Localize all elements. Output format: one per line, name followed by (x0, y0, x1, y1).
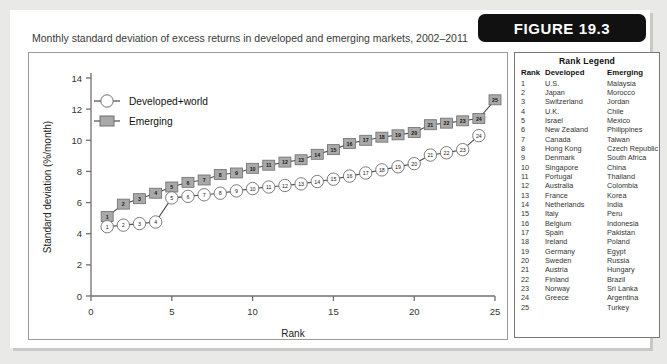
cell-rank: 16 (515, 219, 545, 228)
column-header-rank: Rank (515, 68, 545, 79)
data-point-label: 22 (444, 150, 450, 156)
data-point-label: 7 (203, 192, 206, 198)
data-point-label: 18 (379, 167, 385, 173)
cell-emerging: Morocco (607, 88, 667, 97)
cell-emerging: Sri Lanka (607, 284, 667, 293)
cell-emerging: Mexico (607, 116, 667, 125)
y-axis-tick-label: 6 (77, 197, 82, 208)
x-axis-tick-label: 20 (409, 306, 420, 317)
cell-rank: 11 (515, 172, 545, 181)
y-axis-tick-label: 8 (77, 166, 82, 177)
cell-emerging: India (607, 200, 667, 209)
data-point-label: 18 (379, 134, 385, 140)
data-point-label: 17 (363, 137, 369, 143)
data-point-label: 16 (347, 141, 353, 147)
cell-emerging: Indonesia (607, 219, 667, 228)
data-point-label: 23 (460, 118, 466, 124)
cell-rank: 17 (515, 228, 545, 237)
cell-emerging: Czech Republic (607, 144, 667, 153)
data-point-label: 8 (219, 190, 222, 196)
table-row: 9DenmarkSouth Africa (515, 153, 667, 162)
cell-developed: U.S. (545, 79, 607, 88)
cell-rank: 21 (515, 265, 545, 274)
table-row: 16BelgiumIndonesia (515, 219, 667, 228)
cell-emerging: Hungary (607, 265, 667, 274)
data-point-label: 15 (330, 176, 336, 182)
x-axis-tick-label: 5 (169, 306, 174, 317)
data-point-label: 25 (492, 97, 498, 103)
cell-emerging: Poland (607, 237, 667, 246)
cell-emerging: Russia (607, 256, 667, 265)
cell-rank: 20 (515, 256, 545, 265)
data-point-label: 14 (314, 179, 320, 185)
table-row: 15ItalyPeru (515, 209, 667, 218)
y-axis-tick-label: 2 (77, 259, 82, 270)
data-point-label: 10 (250, 166, 256, 172)
y-axis-tick-label: 14 (71, 73, 82, 84)
cell-emerging: Jordan (607, 97, 667, 106)
legend-label-emerging: Emerging (129, 116, 173, 127)
cell-rank: 3 (515, 97, 545, 106)
cell-rank: 12 (515, 181, 545, 190)
table-row: 4U.K.Chile (515, 107, 667, 116)
cell-developed: U.K. (545, 107, 607, 116)
data-point-label: 6 (186, 194, 189, 200)
data-point-label: 21 (427, 122, 433, 128)
table-row: 10SingaporeChina (515, 163, 667, 172)
cell-emerging: Pakistan (607, 228, 667, 237)
table-row: 2JapanMorocco (515, 88, 667, 97)
cell-rank: 4 (515, 107, 545, 116)
cell-emerging: Argentina (607, 293, 667, 302)
data-point-label: 12 (282, 183, 288, 189)
cell-emerging: Philippines (607, 125, 667, 134)
cell-developed: Norway (545, 284, 607, 293)
table-row: 3SwitzerlandJordan (515, 97, 667, 106)
rank-legend-table: Rank Developed Emerging 1U.S.Malaysia2Ja… (515, 68, 667, 312)
data-point-label: 2 (122, 222, 125, 228)
cell-emerging: Turkey (607, 303, 667, 312)
data-point-label: 13 (298, 181, 304, 187)
y-axis-tick-label: 4 (77, 228, 82, 239)
table-row: 5IsraelMexico (515, 116, 667, 125)
cell-developed: Germany (545, 247, 607, 256)
data-point-label: 9 (235, 170, 238, 176)
data-point-label: 24 (476, 116, 482, 122)
series-emerging: 1234567891011121314151617181920212223242… (101, 95, 501, 222)
column-header-emerging: Emerging (607, 68, 667, 79)
y-axis-tick-label: 10 (71, 135, 82, 146)
data-point-label: 19 (395, 132, 401, 138)
data-point-label: 9 (235, 188, 238, 194)
cell-emerging: Egypt (607, 247, 667, 256)
data-point-label: 1 (106, 214, 109, 220)
cell-rank: 8 (515, 144, 545, 153)
table-row: 1U.S.Malaysia (515, 79, 667, 88)
cell-developed: Switzerland (545, 97, 607, 106)
data-point-label: 21 (427, 152, 433, 158)
table-row: 13FranceKorea (515, 191, 667, 200)
y-axis-label: Standard deviation (%/month) (42, 121, 53, 253)
legend-marker-emerging (100, 116, 114, 126)
chart-title: Monthly standard deviation of excess ret… (32, 32, 468, 44)
figure-card: FIGURE 19.3 Monthly standard deviation o… (10, 10, 650, 348)
data-point-label: 1 (106, 224, 109, 230)
x-axis-tick-label: 25 (490, 306, 501, 317)
cell-emerging: Brazil (607, 275, 667, 284)
data-point-label: 20 (411, 161, 417, 167)
cell-developed: Denmark (545, 153, 607, 162)
chart-svg: 024681012140510152025RankMarkets are ran… (29, 53, 507, 339)
table-row: 7CanadaTaiwan (515, 135, 667, 144)
data-point-label: 2 (122, 201, 125, 207)
cell-rank: 14 (515, 200, 545, 209)
cell-developed: Belgium (545, 219, 607, 228)
table-row: 12AustraliaColombia (515, 181, 667, 190)
cell-developed: New Zealand (545, 125, 607, 134)
cell-rank: 22 (515, 275, 545, 284)
cell-developed: Japan (545, 88, 607, 97)
table-row: 8Hong KongCzech Republic (515, 144, 667, 153)
data-point-label: 11 (266, 184, 272, 190)
data-point-label: 8 (219, 172, 222, 178)
cell-emerging: Peru (607, 209, 667, 218)
y-axis-tick-label: 12 (71, 104, 82, 115)
x-axis-label: Rank (281, 328, 305, 339)
x-axis-tick-label: 10 (247, 306, 258, 317)
